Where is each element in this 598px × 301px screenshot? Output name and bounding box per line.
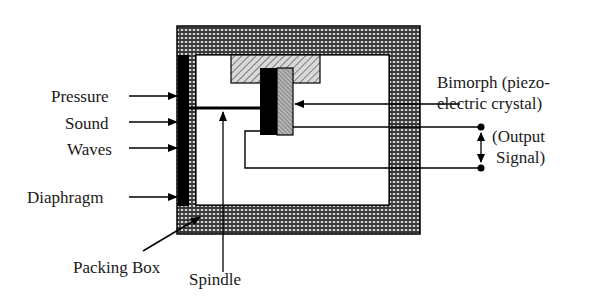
bimorph-crystal: [260, 68, 293, 135]
label-output-2: Signal): [496, 149, 545, 167]
label-bimorph-2: electric crystal): [437, 95, 542, 113]
label-spindle: Spindle: [189, 271, 241, 289]
label-waves: Waves: [67, 141, 112, 159]
label-output-1: (Output: [492, 128, 545, 146]
label-sound: Sound: [65, 115, 108, 133]
label-bimorph-1: Bimorph (piezo-: [437, 74, 550, 92]
label-packing-box: Packing Box: [73, 259, 160, 277]
label-pressure: Pressure: [51, 88, 109, 106]
label-diaphragm: Diaphragm: [27, 189, 103, 207]
diaphragm: [178, 55, 189, 206]
